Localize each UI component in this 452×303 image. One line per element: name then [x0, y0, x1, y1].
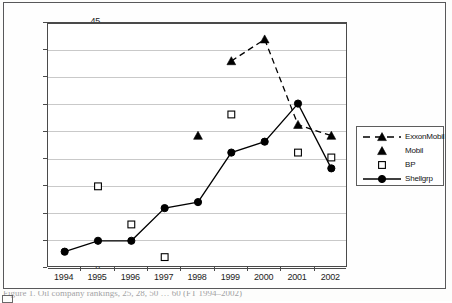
chart-legend: ExxonMobilMobilBPShellgrp [356, 126, 444, 186]
x-tick-label: 2000 [247, 272, 281, 282]
legend-item-shellgrp: Shellgrp [357, 172, 445, 186]
figure-caption: Figure 1. Oil company rankings, 25, 28, … [0, 291, 452, 301]
x-tick-label: 1997 [147, 272, 181, 282]
data-point-square [95, 183, 102, 190]
legend-label: BP [405, 158, 415, 172]
series-line [231, 39, 331, 135]
legend-item-bp: BP [357, 158, 445, 172]
x-tick-label: 1999 [213, 272, 247, 282]
data-point-square [161, 254, 168, 261]
figure-caption-text: Figure 1. Oil company rankings, 25, 28, … [3, 291, 242, 298]
data-point-circle [328, 165, 335, 172]
data-point-circle [294, 100, 301, 107]
legend-marker-icon [361, 130, 403, 144]
series-line [65, 104, 332, 252]
data-point-square [295, 149, 302, 156]
data-point-circle [194, 199, 201, 206]
data-point-square [128, 221, 135, 228]
y-tick-mark [43, 267, 47, 268]
data-point-square [328, 154, 335, 161]
legend-label: ExxonMobil [405, 130, 444, 144]
data-point-circle [61, 248, 68, 255]
legend-marker-icon [361, 144, 403, 158]
series-mobil [194, 131, 203, 139]
data-point-triangle [378, 147, 387, 155]
legend-item-mobil: Mobil [357, 144, 445, 158]
data-point-circle [378, 175, 385, 182]
data-point-triangle [194, 131, 203, 139]
legend-label: Shellgrp [405, 172, 433, 186]
series-shellgrp [61, 100, 335, 255]
data-point-square [228, 111, 235, 118]
legend-marker-icon [361, 172, 403, 186]
legend-marker-icon [361, 158, 403, 172]
plot-area [47, 22, 347, 267]
data-point-circle [128, 237, 135, 244]
legend-item-exxonmobil: ExxonMobil [357, 130, 445, 144]
x-tick-label: 1996 [113, 272, 147, 282]
x-tick-label: 2002 [313, 272, 347, 282]
x-tick-label: 1994 [47, 272, 81, 282]
data-point-circle [161, 205, 168, 212]
data-point-triangle [260, 35, 269, 43]
x-tick-label: 1998 [180, 272, 214, 282]
x-tick-label: 1995 [80, 272, 114, 282]
data-point-triangle [227, 57, 236, 65]
data-series-layer [48, 23, 348, 268]
data-point-triangle [294, 120, 303, 128]
x-tick-label: 2001 [280, 272, 314, 282]
data-point-square [379, 162, 386, 169]
data-point-circle [228, 149, 235, 156]
data-point-circle [94, 237, 101, 244]
legend-label: Mobil [405, 144, 423, 158]
data-point-circle [261, 138, 268, 145]
